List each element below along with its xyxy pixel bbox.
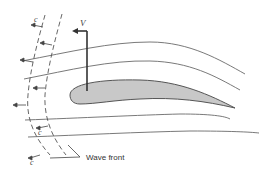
wave-speed-arrows — [13, 23, 52, 160]
airfoil — [70, 80, 235, 108]
velocity-indicator — [75, 31, 87, 91]
streamline-4 — [28, 131, 259, 137]
streamline-3 — [25, 114, 230, 120]
wave-speed-label-2: c — [38, 128, 42, 137]
wave-front-inner — [45, 14, 66, 155]
streamline-1 — [22, 42, 245, 74]
diagram-canvas: V c c c Wave front — [0, 0, 259, 183]
wave-front-label: Wave front — [86, 153, 125, 162]
velocity-arrow-icon — [72, 28, 78, 34]
wave-fronts — [28, 14, 66, 155]
wave-speed-label-1: c — [34, 15, 38, 24]
wave-front-leader — [50, 145, 80, 158]
wave-speed-label-3: c — [30, 158, 34, 167]
velocity-label: V — [80, 18, 87, 28]
